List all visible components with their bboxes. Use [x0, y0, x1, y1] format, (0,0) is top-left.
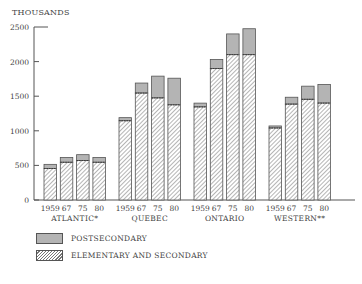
bar-segment-elementary	[60, 162, 73, 200]
x-tick-label: 1959	[191, 204, 210, 213]
x-tick-label: 67	[287, 204, 297, 213]
y-tick-label: 2000	[10, 58, 29, 67]
y-tick-label: 500	[15, 161, 30, 170]
x-tick-label: 67	[212, 204, 222, 213]
x-tick-label: 67	[137, 204, 147, 213]
bar-segment-postsecondary	[135, 83, 148, 93]
y-tick-label: 2500	[10, 23, 29, 32]
bar-segment-elementary	[119, 121, 132, 200]
x-tick-label: 67	[62, 204, 72, 213]
x-tick-label: 80	[94, 204, 104, 213]
x-tick-label: 75	[78, 204, 88, 213]
bar-segment-postsecondary	[93, 157, 106, 162]
bars	[44, 29, 330, 200]
bar-segment-elementary	[194, 107, 207, 200]
x-tick-label: 1959	[116, 204, 135, 213]
bar-segment-postsecondary	[194, 103, 207, 107]
y-tick-label: 0	[24, 196, 29, 205]
bar-segment-postsecondary	[77, 155, 90, 161]
stacked-bar-chart: 05001000150020002500 1959677580ATLANTIC*…	[0, 0, 362, 230]
bar-segment-elementary	[93, 162, 106, 200]
bar-segment-elementary	[285, 104, 298, 200]
x-tick-label: 1959	[266, 204, 285, 213]
bar-segment-postsecondary	[318, 84, 331, 103]
bar-segment-elementary	[210, 69, 223, 200]
group-label: ATLANTIC*	[50, 214, 98, 223]
group-label: QUEBEC	[131, 214, 167, 223]
elementary-swatch	[36, 250, 63, 261]
bar-segment-postsecondary	[152, 76, 165, 98]
legend-label-elementary: ELEMENTARY AND SECONDARY	[71, 251, 208, 260]
x-tick-label: 75	[228, 204, 238, 213]
bar-segment-elementary	[302, 99, 315, 200]
bar-segment-elementary	[77, 161, 90, 200]
bar-segment-elementary	[44, 169, 57, 200]
x-tick-label: 80	[169, 204, 179, 213]
bar-segment-postsecondary	[285, 97, 298, 104]
group-label: WESTERN**	[274, 214, 325, 223]
bar-segment-postsecondary	[44, 164, 57, 168]
legend: POSTSECONDARY ELEMENTARY AND SECONDARY	[36, 230, 208, 264]
bar-segment-elementary	[318, 103, 331, 200]
postsecondary-swatch	[36, 233, 63, 244]
legend-label-postsecondary: POSTSECONDARY	[71, 234, 147, 243]
x-tick-label: 75	[303, 204, 313, 213]
x-tick-label: 75	[153, 204, 163, 213]
bar-segment-postsecondary	[227, 34, 240, 55]
group-label: ONTARIO	[205, 214, 245, 223]
bar-segment-postsecondary	[302, 86, 315, 99]
bar-segment-elementary	[168, 105, 181, 200]
x-tick-label: 80	[319, 204, 329, 213]
bar-segment-elementary	[227, 55, 240, 200]
legend-item-postsecondary: POSTSECONDARY	[36, 230, 208, 247]
bar-segment-postsecondary	[60, 157, 73, 162]
bar-segment-postsecondary	[119, 118, 132, 121]
bar-segment-elementary	[243, 55, 256, 200]
bar-segment-elementary	[269, 128, 282, 200]
y-tick-label: 1500	[10, 92, 29, 101]
legend-item-elementary: ELEMENTARY AND SECONDARY	[36, 247, 208, 264]
bar-segment-postsecondary	[168, 78, 181, 105]
x-tick-label: 1959	[41, 204, 60, 213]
x-axis-labels: 1959677580ATLANTIC*1959677580QUEBEC19596…	[41, 204, 329, 223]
x-tick-label: 80	[244, 204, 254, 213]
bar-segment-postsecondary	[210, 60, 223, 69]
bar-segment-elementary	[135, 93, 148, 200]
y-tick-label: 1000	[10, 127, 29, 136]
bar-segment-elementary	[152, 98, 165, 200]
bar-segment-postsecondary	[243, 29, 256, 55]
